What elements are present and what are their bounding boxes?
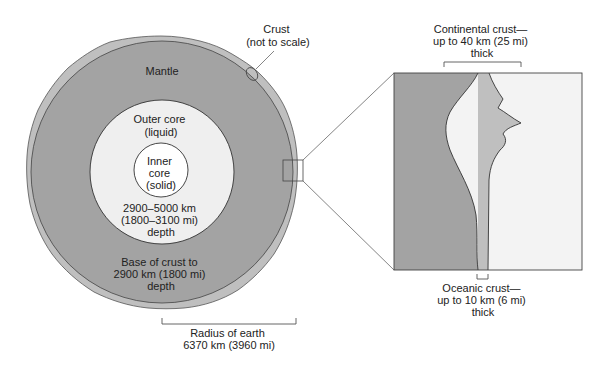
crust-leader-line [256, 51, 274, 69]
zoom-line-bottom [303, 181, 394, 270]
continental-crust-bracket [444, 62, 521, 67]
earth-layers-diagram: Crust (not to scale) Mantle Outer core (… [0, 0, 608, 367]
crust-detail-box [394, 73, 582, 270]
inner-core-label: Inner core (solid) [146, 155, 176, 191]
oceanic-crust-label: Oceanic crust— up to 10 km (6 mi) thick [437, 282, 529, 318]
continental-crust-label: Continental crust— up to 40 km (25 mi) t… [433, 23, 531, 59]
radius-label: Radius of earth 6370 km (3960 mi) [183, 327, 275, 351]
zoom-line-top [303, 73, 394, 160]
mantle-label: Mantle [145, 65, 178, 77]
oceanic-crust-bracket [477, 274, 488, 279]
radius-bracket [162, 318, 296, 324]
crust-label: Crust (not to scale) [246, 23, 310, 48]
